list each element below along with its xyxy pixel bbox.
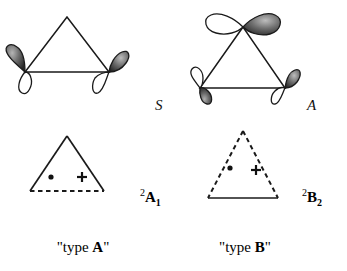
p-orbital-lobe-filled: [200, 88, 212, 104]
caption-suffix: ": [103, 239, 109, 255]
p-orbital-apex-b: [206, 14, 281, 35]
electron-dot-marker-a: [48, 174, 53, 179]
term-letter: B: [307, 189, 317, 205]
triangle-side-right-b: [243, 131, 278, 198]
plus-marker-b: [251, 165, 261, 175]
p-orbital-lobe-filled: [6, 45, 25, 72]
term-letter: A: [145, 189, 156, 205]
caption-bold-letter: A: [92, 239, 103, 255]
triangle-side-left-a: [30, 136, 67, 191]
electron-dot-marker-b: [227, 165, 232, 170]
p-orbital-lobe-empty: [191, 67, 203, 88]
p-orbital-lobe-empty: [93, 72, 109, 93]
p-orbital-bottom-left-b: [191, 67, 212, 104]
state-diagram-b: [208, 131, 278, 198]
term-symbol-b2: 2B2: [302, 188, 322, 208]
p-orbital-lobe-filled: [243, 14, 280, 35]
caption-type-b: "type B": [190, 240, 300, 255]
triangle-outline-a: [25, 17, 109, 72]
caption-bold-letter: B: [255, 239, 265, 255]
triangle-outline-b: [200, 27, 285, 88]
p-orbital-lobe-empty: [206, 14, 243, 34]
term-subscript: 2: [317, 197, 322, 208]
orbital-diagram-b: [191, 14, 300, 104]
p-orbital-lobe-filled: [109, 51, 129, 72]
symmetry-label-a: A: [307, 98, 316, 113]
triangle-side-right-a: [67, 136, 104, 191]
symmetry-label-s: S: [155, 98, 163, 113]
p-orbital-lobe-filled: [285, 70, 300, 88]
state-diagram-a: [30, 136, 104, 191]
caption-suffix: ": [265, 239, 271, 255]
plus-marker-a: [77, 172, 87, 182]
caption-prefix: "type: [57, 239, 93, 255]
p-orbital-lobe-empty: [19, 72, 32, 94]
molecular-orbital-figure: [0, 0, 347, 271]
caption-prefix: "type: [219, 239, 255, 255]
caption-type-a: "type A": [28, 240, 138, 255]
orbital-diagram-a: [6, 17, 129, 94]
term-symbol-a1: 2A1: [140, 188, 161, 208]
triangle-side-left-b: [208, 131, 243, 198]
term-subscript: 1: [156, 197, 161, 208]
p-orbital-lobe-empty: [271, 88, 285, 104]
